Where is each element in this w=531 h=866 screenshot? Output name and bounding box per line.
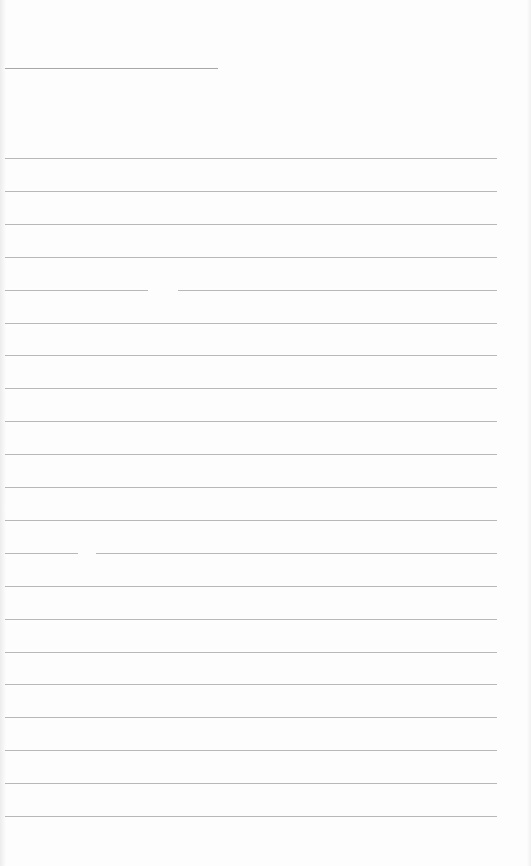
ruled-line bbox=[5, 158, 497, 159]
ruled-line bbox=[5, 619, 497, 620]
line-gap bbox=[148, 289, 178, 292]
ruled-line bbox=[5, 586, 497, 587]
ruled-line bbox=[5, 684, 497, 685]
ruled-line bbox=[5, 520, 497, 521]
ruled-line bbox=[5, 421, 497, 422]
line-gap bbox=[78, 552, 96, 555]
ruled-line bbox=[5, 257, 497, 258]
paper-right-edge-shadow bbox=[527, 0, 531, 866]
ruled-line bbox=[5, 783, 497, 784]
ruled-line bbox=[5, 224, 497, 225]
ruled-line bbox=[5, 816, 497, 817]
ruled-line bbox=[5, 290, 497, 291]
ruled-line bbox=[5, 388, 497, 389]
ruled-line bbox=[5, 652, 497, 653]
ruled-line bbox=[5, 355, 497, 356]
ruled-line bbox=[5, 750, 497, 751]
ruled-line bbox=[5, 323, 497, 324]
ruled-line bbox=[5, 191, 497, 192]
paper-left-edge-shadow bbox=[0, 0, 6, 866]
ruled-line bbox=[5, 487, 497, 488]
ruled-line bbox=[5, 717, 497, 718]
ruled-line bbox=[5, 454, 497, 455]
title-line bbox=[5, 68, 218, 69]
